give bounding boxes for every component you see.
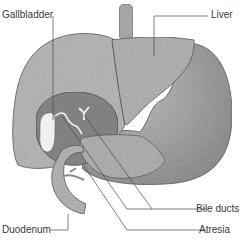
label-liver: Liver <box>211 10 233 20</box>
duodenum-leader <box>50 214 68 230</box>
esophagus <box>119 4 133 40</box>
label-duodenum: Duodenum <box>2 225 51 235</box>
label-bile-ducts: Bile ducts <box>196 204 239 214</box>
label-gallbladder: Gallbladder <box>2 10 53 20</box>
common-duct-branch <box>64 168 84 180</box>
label-atresia: Atresia <box>199 225 230 235</box>
